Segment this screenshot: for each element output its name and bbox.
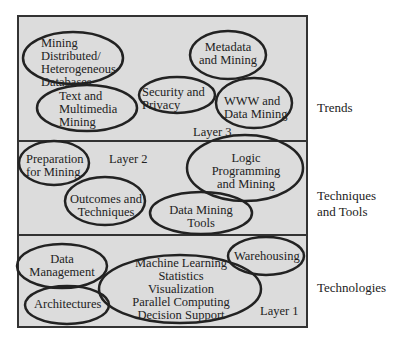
- label-security-privacy: Security and Privacy: [142, 86, 205, 112]
- label-mining-distributed: Mining Distributed/ Heterogeneous Databa…: [41, 37, 116, 89]
- category-techniques-tools: Techniques and Tools: [317, 188, 376, 220]
- text-line: and Tools: [317, 204, 376, 220]
- text-line: Techniques: [317, 188, 376, 204]
- label-outcomes: Outcomes and Techniques: [70, 193, 142, 219]
- layer-2-label: Layer 2: [109, 153, 148, 166]
- text-line: for Mining: [26, 166, 84, 179]
- text-line: Databases: [41, 76, 116, 89]
- text-line: Decision Support: [125, 309, 237, 322]
- text-line: Techniques: [70, 206, 142, 219]
- text-line: and Mining: [198, 54, 258, 67]
- text-line: Data Mining: [224, 108, 288, 121]
- layer-3-label: Layer 3: [193, 126, 232, 139]
- label-data-management: Data Management: [26, 253, 98, 279]
- label-dm-tools: Data Mining Tools: [166, 204, 236, 230]
- category-technologies: Technologies: [317, 280, 386, 296]
- label-metadata: Metadata and Mining: [198, 41, 258, 67]
- layer-1-label: Layer 1: [260, 305, 299, 318]
- label-logic-programming: Logic Programming and Mining: [210, 152, 282, 191]
- text-line: Privacy: [142, 99, 205, 112]
- text-line: Mining: [59, 116, 117, 129]
- label-www: WWW and Data Mining: [224, 95, 288, 121]
- label-preparation: Preparation for Mining: [26, 153, 84, 179]
- text-line: Tools: [166, 217, 236, 230]
- category-trends: Trends: [317, 100, 353, 116]
- label-warehousing: Warehousing: [234, 250, 300, 263]
- label-ml-stats: Machine Learning Statistics Visualizatio…: [125, 257, 237, 322]
- label-text-multimedia: Text and Multimedia Mining: [59, 90, 117, 129]
- text-line: and Mining: [210, 178, 282, 191]
- label-architectures: Architectures: [34, 298, 101, 311]
- text-line: Management: [26, 266, 98, 279]
